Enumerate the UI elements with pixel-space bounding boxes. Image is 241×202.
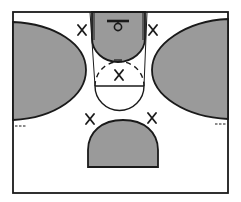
top-of-key-zone xyxy=(88,120,158,167)
key-lane-zone xyxy=(92,12,145,62)
court-diagram xyxy=(0,0,241,202)
